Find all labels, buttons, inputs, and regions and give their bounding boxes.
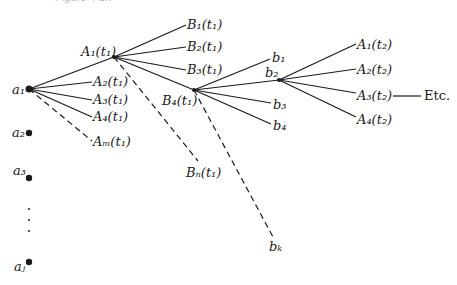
ellipsis-dot [28, 219, 30, 221]
label-A1t1: A₁(t₁) [81, 45, 116, 58]
edge-a1-Amt1 [29, 89, 92, 141]
node-B4t1 [192, 88, 196, 92]
edge-b2-A4t2 [279, 80, 356, 117]
label-A4t2: A₄(t₂) [357, 113, 392, 126]
edge-A1t1-B3t1 [114, 57, 186, 70]
label-B3t1: B₃(t₁) [187, 63, 222, 76]
label-b1: b₁ [272, 51, 286, 64]
label-A2t2: A₂(t₂) [357, 63, 392, 76]
label-A1t2: A₁(t₂) [357, 38, 392, 51]
edge-a1-A4t1 [29, 89, 92, 117]
label-bk: bₖ [269, 240, 282, 253]
label-aj: aⱼ [14, 260, 25, 273]
edge-B4t1-b3 [194, 90, 271, 103]
label-B1t1: B₁(t₁) [187, 18, 222, 31]
label-b2: b₂ [265, 66, 279, 79]
label-A2t1: A₂(t₁) [93, 75, 128, 88]
label-etc: Etc. [424, 89, 450, 102]
label-A3t1: A₃(t₁) [93, 93, 128, 106]
edge-b2-A3t2 [279, 80, 356, 93]
edge-a1-A3t1 [29, 89, 92, 100]
node-a3 [26, 175, 32, 181]
node-a2 [26, 130, 32, 136]
ellipsis-dot [28, 230, 30, 232]
label-A4t1: A₄(t₁) [93, 110, 128, 123]
label-Bnt1: Bₙ(t₁) [186, 166, 221, 179]
label-B4t1: B₄(t₁) [162, 94, 197, 107]
label-a2: a₂ [12, 126, 25, 139]
label-b3: b₃ [273, 98, 287, 111]
node-a1 [26, 86, 33, 93]
edge-B4t1-b4 [194, 90, 271, 124]
label-B2t1: B₂(t₁) [187, 40, 222, 53]
edge-B4t1-bk [194, 90, 273, 237]
node-aj [26, 259, 32, 265]
ellipsis-dot [28, 208, 30, 210]
label-A3t2: A₃(t₂) [357, 89, 392, 102]
label-b4: b₄ [273, 119, 287, 132]
label-a3: a₃ [13, 164, 26, 177]
label-a1: a₁ [12, 83, 25, 96]
label-Amt1: Aₘ(t₁) [93, 135, 131, 148]
